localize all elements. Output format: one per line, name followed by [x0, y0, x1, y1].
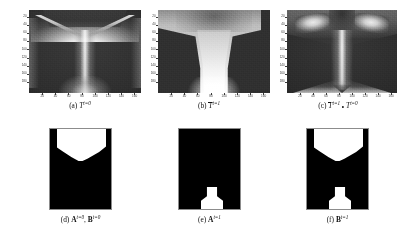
panel-e: (e) At=1 [162, 128, 257, 238]
panel-f-caption: (f) Bt=1 [290, 216, 385, 223]
panel-b-xtick-label: 60 [196, 95, 199, 98]
panel-f-mask [306, 128, 369, 210]
panel-c-ytick-label: 180 [280, 81, 285, 84]
panel-f-white-pedestal [329, 187, 351, 209]
panel-b-caption-prefix: (b) [198, 101, 207, 110]
panel-a-ytick-label: 40 [23, 23, 26, 26]
panel-a-xtick-label: 60 [67, 95, 70, 98]
panel-b-ytick-label: 140 [151, 64, 156, 67]
panel-c-y-axis: 20 40 60 80 100 120 140 160 180 [277, 10, 287, 93]
panel-f-caption-prefix: (f) [327, 215, 334, 224]
panel-e-superscript: t=1 [213, 214, 221, 220]
panel-b-xtick-label: 100 [222, 95, 227, 98]
panel-b-symbol: T [208, 101, 212, 110]
panel-a-xtick-label: 160 [132, 95, 137, 98]
panel-b-plot [158, 10, 270, 93]
panel-a-ytick-label: 60 [23, 32, 26, 35]
panel-a-ytick-label: 100 [22, 48, 27, 51]
panel-b-xtick-label: 160 [261, 95, 266, 98]
panel-b-ytick-label: 180 [151, 81, 156, 84]
panel-f-superscript: t=1 [341, 214, 349, 220]
panel-b-ytick-label: 60 [152, 32, 155, 35]
panel-a-caption: (a) Tt=0 [19, 102, 141, 109]
panel-a-xtick-label: 140 [119, 95, 124, 98]
panel-c-ytick-label: 100 [280, 48, 285, 51]
panel-a-vignette [29, 10, 141, 93]
panel-c-xtick-label: 60 [324, 95, 327, 98]
panel-b-ytick-label: 120 [151, 56, 156, 59]
panel-c-ytick-label: 60 [281, 32, 284, 35]
panel-a-ytick-label: 180 [22, 81, 27, 84]
panel-a-ytick-label: 120 [22, 56, 27, 59]
panel-f: (f) Bt=1 [290, 128, 385, 238]
panel-c-xtick-label: 40 [311, 95, 314, 98]
panel-b-caption: (b) Tt=1 [148, 102, 270, 109]
panel-a-ytick-label: 20 [23, 15, 26, 18]
panel-b-y-axis: 20 40 60 80 100 120 140 160 180 [148, 10, 158, 93]
panel-b-ytick-label: 20 [152, 15, 155, 18]
panel-a-ytick-label: 80 [23, 40, 26, 43]
panel-d-caption-prefix: (d) [61, 215, 70, 224]
panel-a-xtick-label: 100 [93, 95, 98, 98]
panel-b-ytick-label: 100 [151, 48, 156, 51]
panel-c-ytick-label: 160 [280, 73, 285, 76]
panel-d-mask [49, 128, 112, 210]
panel-c-xtick-label: 20 [298, 95, 301, 98]
panel-b-xtick-label: 140 [248, 95, 253, 98]
panel-b-xtick-label: 120 [235, 95, 240, 98]
panel-c-xtick-label: 80 [337, 95, 340, 98]
panel-c-xtick-label: 120 [363, 95, 368, 98]
panel-b-ytick-label: 40 [152, 23, 155, 26]
panel-d-caption: (d) At=0, Bt=0 [33, 216, 128, 223]
panel-a-xtick-label: 120 [106, 95, 111, 98]
panel-e-caption: (e) At=1 [162, 216, 257, 223]
panel-b-xtick-label: 80 [209, 95, 212, 98]
panel-e-caption-prefix: (e) [198, 215, 206, 224]
panel-c-caption-prefix: (c) [318, 101, 326, 110]
panel-d: (d) At=0, Bt=0 [33, 128, 128, 238]
panel-b-ytick-label: 160 [151, 73, 156, 76]
panel-b-xtick-label: 20 [170, 95, 173, 98]
panel-c-vignette [287, 10, 397, 93]
panel-a: 20 40 60 80 100 120 140 160 180 20 40 60… [19, 10, 141, 110]
panel-c-xtick-label: 140 [376, 95, 381, 98]
panel-f-white-region-top [314, 129, 363, 161]
panel-c-ytick-label: 120 [280, 56, 285, 59]
panel-c-ytick-label: 40 [281, 23, 284, 26]
panel-c-ytick-label: 20 [281, 15, 284, 18]
panel-c-plot [287, 10, 397, 93]
panel-c-caption: (c) Tt=1∘Tt=0 [277, 102, 399, 109]
panel-a-caption-prefix: (a) [69, 101, 77, 110]
panel-c: 20 40 60 80 100 120 140 160 180 20 40 60… [277, 10, 399, 110]
panel-d-superscript2: t=0 [93, 214, 101, 220]
panel-a-y-axis: 20 40 60 80 100 120 140 160 180 [19, 10, 29, 93]
panel-a-xtick-label: 40 [54, 95, 57, 98]
panel-d-white-region [57, 129, 106, 161]
panel-c-x-axis: 20 40 60 80 100 120 140 160 [287, 93, 397, 102]
panel-a-plot [29, 10, 141, 93]
panel-a-ytick-label: 160 [22, 73, 27, 76]
panel-c-symbol: T [328, 101, 332, 110]
panel-b: 20 40 60 80 100 120 140 160 180 20 40 60… [148, 10, 270, 110]
panel-a-xtick-label: 20 [41, 95, 44, 98]
panel-b-noise [158, 10, 270, 93]
panel-b-xtick-label: 40 [183, 95, 186, 98]
panel-b-ytick-label: 80 [152, 40, 155, 43]
panel-d-superscript: t=0 [77, 214, 85, 220]
panel-c-ytick-label: 140 [280, 64, 285, 67]
panel-b-superscript: t=1 [213, 100, 221, 106]
panel-e-mask [178, 128, 241, 210]
panel-a-xtick-label: 80 [80, 95, 83, 98]
panel-c-superscript2: t=0 [350, 100, 358, 106]
panel-d-separator: , [84, 215, 86, 224]
panel-c-xtick-label: 100 [350, 95, 355, 98]
panel-c-xtick-label: 160 [389, 95, 394, 98]
panel-a-ytick-label: 140 [22, 64, 27, 67]
panel-c-ytick-label: 80 [281, 40, 284, 43]
panel-e-white-pedestal [201, 187, 223, 209]
panel-c-superscript: t=1 [332, 100, 340, 106]
panel-a-superscript: t=0 [83, 100, 91, 106]
